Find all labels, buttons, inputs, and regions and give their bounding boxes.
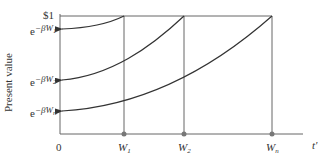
w: W (118, 141, 127, 153)
w1-dot (122, 132, 127, 137)
tick-e-beta-w1: e−βW1 (30, 24, 56, 37)
y-axis-label: Present value (2, 53, 14, 112)
sub-1: 1 (53, 27, 57, 35)
w1-label: W1 (118, 142, 131, 155)
sub-2: 2 (187, 147, 191, 155)
curve-wn (62, 16, 272, 111)
w: W (178, 141, 187, 153)
origin-label: 0 (56, 142, 62, 153)
sub-2: 2 (53, 78, 57, 86)
w: W (266, 141, 275, 153)
curve-w2 (62, 16, 184, 80)
sub-n: n (53, 109, 57, 117)
w2-label: W2 (178, 142, 191, 155)
exp-prefix: −βW (35, 23, 53, 33)
sub-1: 1 (127, 147, 131, 155)
curve-w1 (62, 16, 124, 29)
exponent: −βW2 (35, 74, 57, 84)
one-dollar-label: $1 (43, 10, 54, 21)
wn-label: Wn (266, 142, 279, 155)
tick-e-beta-wn: e−βWn (30, 106, 56, 119)
exp-prefix: −βW (35, 74, 53, 84)
sub-n: n (275, 147, 279, 155)
w2-dot (182, 132, 187, 137)
wn-dot (270, 132, 275, 137)
exponent: −βWn (35, 105, 57, 115)
exponent: −βW1 (35, 23, 57, 33)
x-axis-label: t' (312, 140, 317, 151)
tick-e-beta-w2: e−βW2 (30, 75, 56, 88)
exp-prefix: −βW (35, 105, 53, 115)
